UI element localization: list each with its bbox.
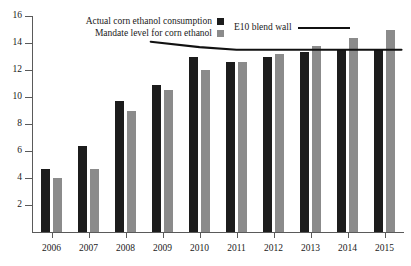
y-tick-label-14: 14: [0, 38, 22, 48]
y-tick-12: [25, 70, 33, 71]
legend-item-mandate: Mandate level for corn ethanol: [38, 28, 224, 39]
y-tick-label-4: 4: [0, 173, 22, 183]
y-tick-14: [25, 43, 33, 44]
bar-actual-2009: [152, 85, 161, 232]
legend-label-blendwall: E10 blend wall: [234, 22, 292, 33]
bar-actual-2012: [263, 57, 272, 233]
y-tick-label-12: 12: [0, 65, 22, 75]
y-tick-label-2: 2: [0, 200, 22, 210]
bar-mandate-2011: [238, 62, 247, 232]
legend-item-actual: Actual corn ethanol consumption: [38, 16, 224, 27]
y-tick-label-16: 16: [0, 11, 22, 21]
legend-label-mandate: Mandate level for corn ethanol: [95, 28, 212, 39]
bar-mandate-2012: [275, 54, 284, 232]
x-tick-2012: [274, 232, 275, 238]
bar-mandate-2009: [164, 90, 173, 232]
x-tick-2013: [311, 232, 312, 238]
x-tick-2014: [348, 232, 349, 238]
legend-item-blendwall: E10 blend wall: [234, 22, 350, 33]
bar-mandate-2008: [127, 111, 136, 233]
y-tick-10: [25, 97, 33, 98]
y-tick-8: [25, 124, 33, 125]
chart-legend: Actual corn ethanol consumption Mandate …: [38, 16, 398, 46]
bar-actual-2013: [300, 52, 309, 232]
legend-swatch-mandate-icon: [217, 30, 224, 37]
y-tick-16: [25, 16, 33, 17]
y-tick-label-10: 10: [0, 92, 22, 102]
legend-swatch-actual-icon: [217, 18, 224, 25]
y-tick-4: [25, 178, 33, 179]
bar-mandate-2015: [386, 30, 395, 233]
x-tick-2011: [237, 232, 238, 238]
bar-actual-2015: [374, 50, 383, 232]
bar-actual-2010: [189, 57, 198, 233]
bar-actual-2011: [226, 62, 235, 232]
bar-actual-2008: [115, 101, 124, 232]
ethanol-bar-chart: 161412108642 200620072008200920102011201…: [0, 0, 411, 266]
bars-layer: [33, 16, 403, 232]
y-tick-label-8: 8: [0, 119, 22, 129]
y-tick-label-6: 6: [0, 146, 22, 156]
legend-line-blendwall-icon: [298, 27, 350, 29]
x-tick-label-2015: 2015: [360, 243, 410, 253]
x-tick-2010: [200, 232, 201, 238]
legend-label-actual: Actual corn ethanol consumption: [86, 16, 212, 27]
x-tick-2009: [163, 232, 164, 238]
x-tick-2008: [126, 232, 127, 238]
x-tick-2007: [89, 232, 90, 238]
y-tick-2: [25, 205, 33, 206]
bar-mandate-2013: [312, 46, 321, 232]
y-tick-6: [25, 151, 33, 152]
bar-mandate-2007: [90, 169, 99, 232]
bar-actual-2014: [337, 50, 346, 232]
x-tick-2006: [52, 232, 53, 238]
bar-actual-2007: [78, 146, 87, 232]
bar-mandate-2014: [349, 38, 358, 232]
bar-mandate-2010: [201, 70, 210, 232]
bar-mandate-2006: [53, 178, 62, 232]
x-tick-2015: [385, 232, 386, 238]
bar-actual-2006: [41, 169, 50, 232]
